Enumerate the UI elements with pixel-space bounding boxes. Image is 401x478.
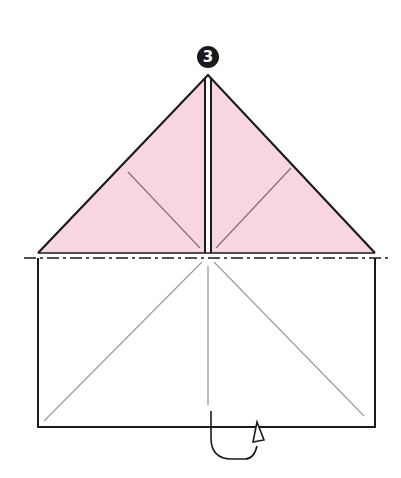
bottom-rectangle: [38, 258, 375, 427]
bottom-right-crease: [214, 262, 364, 416]
turn-over-arrow: [211, 411, 257, 459]
origami-diagram: [0, 0, 401, 478]
bottom-left-crease: [44, 262, 202, 421]
arrow-head-icon: [253, 422, 264, 442]
